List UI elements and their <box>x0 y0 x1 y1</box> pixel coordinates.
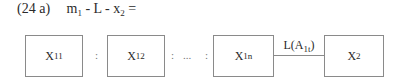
box-label: X <box>347 49 356 64</box>
connector-line <box>273 55 324 56</box>
box-x12: X12 <box>107 35 165 77</box>
connector-label-end: ) <box>311 38 315 52</box>
separator-colon: : <box>95 49 98 61</box>
separator-ellipsis: ... <box>183 49 191 61</box>
connector-label-text: L(A <box>283 38 303 52</box>
box-label: X <box>45 49 54 64</box>
equation-mid: - L - <box>82 1 113 16</box>
equation-number: (24 a) <box>17 1 63 17</box>
separator-colon: : <box>171 49 174 61</box>
box-label: X <box>235 49 244 64</box>
box-label: X <box>127 49 136 64</box>
equation-m: m <box>67 1 78 16</box>
separator-colon: : <box>205 49 208 61</box>
box-x11: X11 <box>25 35 83 77</box>
equation-eq: = <box>125 1 136 16</box>
connector-label-sub: 1t <box>303 44 310 54</box>
connector-label: L(A1t) <box>276 38 322 53</box>
box-x1n: X1n <box>213 35 274 77</box>
box-x2: X2 <box>324 35 384 77</box>
equation-title: (24 a) m1 - L - x2 = <box>17 1 136 17</box>
